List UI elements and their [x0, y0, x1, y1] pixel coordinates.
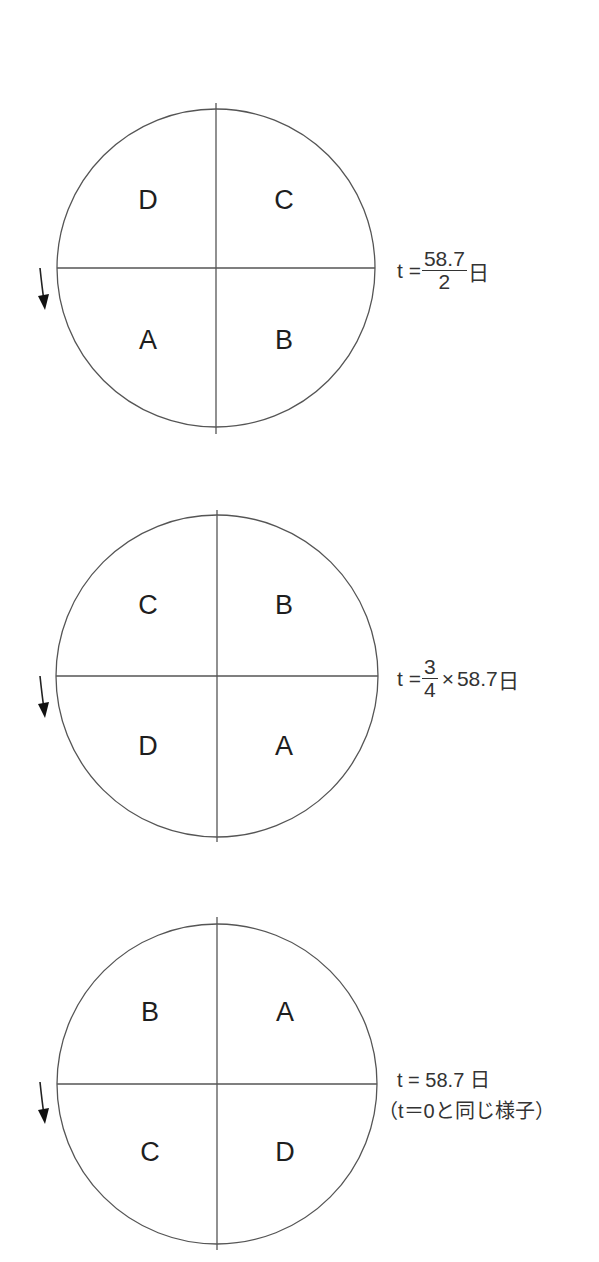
- quadrant-label-bottom-right: A: [275, 733, 293, 760]
- quadrant-label-bottom-left: C: [140, 1139, 160, 1166]
- fraction-numerator: 3: [422, 656, 438, 679]
- fraction: 3 4: [422, 656, 438, 701]
- fraction-numerator: 58.7: [422, 248, 467, 271]
- time-unit: 日: [468, 256, 489, 286]
- time-value: 58.7: [457, 667, 498, 691]
- quadrant-label-bottom-left: A: [139, 327, 157, 354]
- panel-half-period: D C A B t = 58.7 2 日: [0, 0, 599, 400]
- time-label: t = 58.7 2 日: [397, 248, 489, 293]
- time-prefix: t =: [397, 259, 421, 283]
- panel-full-period: B A C D t = 58.7 日 （t＝0と同じ様子）: [0, 816, 599, 1216]
- quadrant-label-bottom-left: D: [138, 733, 158, 760]
- quadrant-label-bottom-right: B: [275, 327, 293, 354]
- disk-diagram: [0, 0, 599, 460]
- quadrant-label-bottom-right: D: [275, 1139, 295, 1166]
- quadrant-label-top-left: C: [138, 592, 158, 619]
- quadrant-label-top-right: B: [275, 592, 293, 619]
- rotation-arrow-icon: [34, 1079, 58, 1129]
- times-sign: ×: [442, 667, 454, 691]
- fraction: 58.7 2: [422, 248, 467, 293]
- time-label: t = 58.7 日: [397, 1064, 490, 1093]
- rotation-arrow-icon: [34, 265, 58, 315]
- time-note: （t＝0と同じ様子）: [378, 1095, 555, 1124]
- time-prefix: t =: [397, 667, 421, 691]
- quadrant-label-top-left: B: [141, 999, 159, 1026]
- disk-diagram: [0, 408, 599, 868]
- panel-three-quarter-period: C B D A t = 3 4 × 58.7 日: [0, 408, 599, 808]
- disk-diagram: [0, 816, 599, 1262]
- fraction-denominator: 2: [439, 271, 451, 293]
- rotation-arrow-icon: [34, 673, 58, 723]
- quadrant-label-top-right: C: [274, 187, 294, 214]
- quadrant-label-top-left: D: [138, 187, 158, 214]
- fraction-denominator: 4: [424, 679, 436, 701]
- quadrant-label-top-right: A: [276, 999, 294, 1026]
- time-label: t = 3 4 × 58.7 日: [397, 656, 519, 701]
- time-unit: 日: [498, 664, 519, 694]
